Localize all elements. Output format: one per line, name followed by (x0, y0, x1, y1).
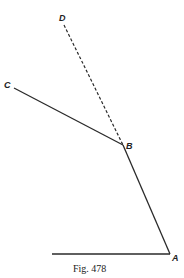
label-a: A (171, 253, 179, 263)
figure-caption: Fig. 478 (73, 263, 106, 274)
segment-bd-dashed (64, 25, 123, 145)
label-c: C (4, 80, 11, 90)
segment-ba (123, 145, 170, 254)
label-b: B (126, 141, 133, 151)
label-d: D (59, 13, 66, 23)
geometry-figure: D C B A Fig. 478 (0, 0, 184, 278)
segment-cb (14, 88, 123, 145)
